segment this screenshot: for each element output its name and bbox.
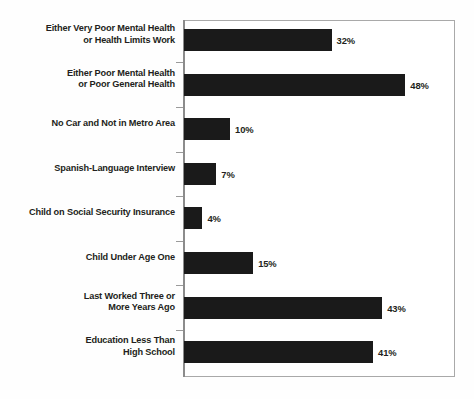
bar-track: 10% [184,118,456,140]
bar-track: 41% [184,341,456,363]
bar-track: 48% [184,74,456,96]
bar-category-label: Either Very Poor Mental Healthor Health … [8,23,175,46]
bar-category-label-line: Spanish-Language Interview [8,163,175,175]
bar-category-label-line: More Years Ago [8,302,175,314]
bar-category-label: Child on Social Security Insurance [8,207,175,219]
bar [184,341,373,363]
bar [184,74,405,96]
bar-track: 7% [184,163,456,185]
bar [184,29,332,51]
bar [184,207,202,229]
bar-category-label: Last Worked Three orMore Years Ago [8,291,175,314]
axis-tick [176,152,183,153]
bar-category-label: Either Poor Mental Healthor Poor General… [8,68,175,91]
bar-category-label-line: No Car and Not in Metro Area [8,118,175,130]
bar-category-label: Education Less ThanHigh School [8,335,175,358]
bar-value-label: 41% [378,347,396,358]
horizontal-bar-chart: Either Very Poor Mental Healthor Health … [0,0,474,399]
axis-tick [176,330,183,331]
bar-track: 15% [184,252,456,274]
bar-row: Education Less ThanHigh School41% [0,329,474,375]
bar-value-label: 15% [258,258,276,269]
bar-category-label-line: Last Worked Three or [8,291,175,303]
bar-row: Child on Social Security Insurance4% [0,195,474,241]
bar-category-label-line: Education Less Than [8,335,175,347]
bar-category-label-line: or Poor General Health [8,79,175,91]
bar-value-label: 7% [221,168,234,179]
bar-row: Either Very Poor Mental Healthor Health … [0,17,474,63]
bar-category-label: Spanish-Language Interview [8,163,175,175]
bar-track: 43% [184,297,456,319]
bar-row: Child Under Age One15% [0,240,474,286]
bar-category-label: Child Under Age One [8,252,175,264]
bar-value-label: 48% [410,79,428,90]
bar-category-label-line: or Health Limits Work [8,35,175,47]
bar [184,163,216,185]
bar [184,297,382,319]
bar-category-label-line: Either Very Poor Mental Health [8,23,175,35]
bar-row: Spanish-Language Interview7% [0,151,474,197]
bar-value-label: 10% [235,124,253,135]
bar-category-label-line: Either Poor Mental Health [8,68,175,80]
bar-row: Last Worked Three orMore Years Ago43% [0,285,474,331]
bar-value-label: 32% [337,35,355,46]
bar [184,118,230,140]
axis-tick [176,62,183,63]
bar-value-label: 43% [387,302,405,313]
axis-tick [176,196,183,197]
bar-value-label: 4% [207,213,220,224]
bar-row: Either Poor Mental Healthor Poor General… [0,62,474,108]
bar-track: 32% [184,29,456,51]
bar-category-label: No Car and Not in Metro Area [8,118,175,130]
bar-category-label-line: Child Under Age One [8,252,175,264]
axis-tick [176,285,183,286]
axis-tick [176,107,183,108]
bar [184,252,253,274]
bar-category-label-line: High School [8,347,175,359]
axis-tick [176,241,183,242]
bar-category-label-line: Child on Social Security Insurance [8,207,175,219]
bar-row: No Car and Not in Metro Area10% [0,106,474,152]
bar-track: 4% [184,207,456,229]
